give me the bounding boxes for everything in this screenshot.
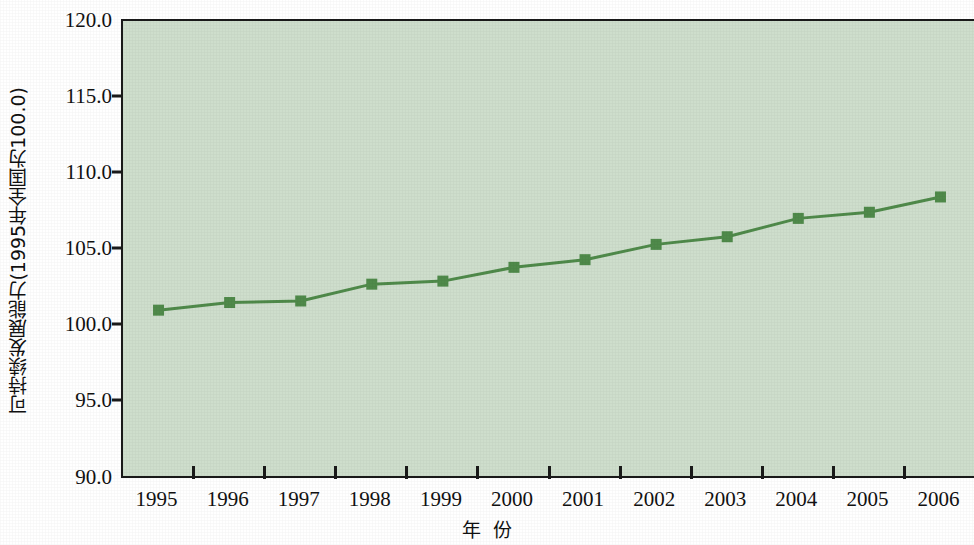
data-point-marker — [366, 279, 377, 290]
x-axis-title-text: 年份 — [462, 519, 512, 541]
y-axis-tick-labels: 120.0 115.0 110.0 105.0 100.0 95.0 90.0 — [22, 0, 112, 545]
y-tick-label: 120.0 — [28, 8, 112, 33]
x-tick-mark — [903, 466, 906, 479]
y-tick-label: 115.0 — [28, 84, 112, 109]
series-markers — [153, 191, 946, 315]
y-tick-label: 90.0 — [28, 465, 112, 490]
x-tick-mark — [690, 466, 693, 479]
x-tick-mark — [548, 466, 551, 479]
data-point-marker — [722, 231, 733, 242]
x-tick-mark — [405, 466, 408, 479]
data-point-marker — [580, 254, 591, 265]
y-tick-label: 105.0 — [28, 236, 112, 261]
x-tick-mark — [334, 466, 337, 479]
y-tick-label: 110.0 — [28, 160, 112, 185]
line-series-svg — [123, 21, 974, 480]
x-tick-mark — [619, 466, 622, 479]
data-point-marker — [508, 262, 519, 273]
data-point-marker — [935, 191, 946, 202]
x-tick-mark — [263, 466, 266, 479]
x-tick-label: 2006 — [893, 487, 974, 512]
x-tick-mark — [192, 466, 195, 479]
plot-area — [121, 19, 974, 478]
data-point-marker — [864, 207, 875, 218]
x-tick-mark — [476, 466, 479, 479]
x-tick-mark — [761, 466, 764, 479]
data-point-marker — [651, 239, 662, 250]
x-tick-mark — [832, 466, 835, 479]
data-point-marker — [153, 305, 164, 316]
series-line — [159, 197, 941, 310]
chart-root: 可持续发展能力(1995年全国为100.0) 120.0 115.0 110.0… — [0, 0, 974, 545]
data-point-marker — [437, 276, 448, 287]
x-axis-title: 年份 — [0, 515, 974, 542]
y-tick-label: 95.0 — [28, 388, 112, 413]
y-tick-label: 100.0 — [28, 312, 112, 337]
data-point-marker — [295, 295, 306, 306]
data-point-marker — [793, 213, 804, 224]
data-point-marker — [224, 297, 235, 308]
